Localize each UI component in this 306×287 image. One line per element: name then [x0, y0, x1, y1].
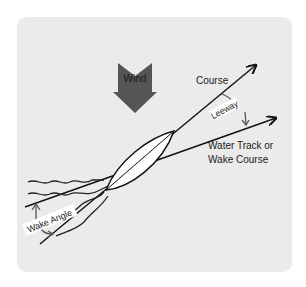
boat-centerline — [106, 131, 174, 190]
wake-angle-up-arrow-icon — [32, 204, 40, 220]
water-track-label-line1: Water Track or — [208, 140, 274, 151]
course-label: Course — [196, 75, 229, 86]
leeway-arrow-icon — [242, 112, 249, 125]
wind-arrow-icon — [113, 63, 157, 113]
water-track-label-line2: Wake Course — [208, 154, 269, 165]
leeway-diagram: Wind Course Water Track or Wake Course L… — [0, 0, 306, 287]
wind-label: Wind — [124, 73, 147, 84]
leeway-label: Leeway — [209, 98, 240, 121]
